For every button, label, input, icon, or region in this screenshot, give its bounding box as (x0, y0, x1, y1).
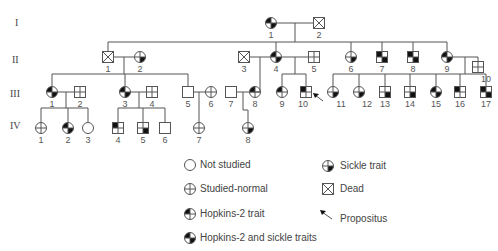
legend-label-hopkins2-trait: Hopkins-2 trait (200, 208, 264, 219)
label-IV-2: 2 (60, 135, 76, 145)
label-IV-1: 1 (33, 135, 49, 145)
label-II-6: 6 (343, 64, 359, 74)
label-III-1: 1 (44, 99, 60, 109)
label-IV-7: 7 (191, 135, 207, 145)
label-II-10: 10 (478, 74, 494, 84)
individual-IV-6 (160, 123, 171, 134)
label-III-17: 17 (478, 99, 494, 109)
label-III-4: 4 (144, 99, 160, 109)
label-II-7: 7 (374, 64, 390, 74)
legend-label-sickle-trait: Sickle trait (340, 160, 386, 171)
label-III-16: 16 (452, 99, 468, 109)
label-III-9: 9 (274, 99, 290, 109)
label-I-1: 1 (263, 30, 279, 40)
label-III-8: 8 (247, 99, 263, 109)
label-IV-4: 4 (110, 135, 126, 145)
individual-III-7 (226, 87, 237, 98)
label-II-9: 9 (439, 64, 455, 74)
label-IV-6: 6 (157, 135, 173, 145)
label-I-2: 2 (311, 30, 327, 40)
legend-label-propositus: Propositus (340, 213, 387, 224)
legend-label-not-studied: Not studied (200, 159, 251, 170)
label-III-10: 10 (295, 99, 311, 109)
label-IV-5: 5 (135, 135, 151, 145)
individual-III-5 (183, 87, 194, 98)
label-III-13: 13 (377, 99, 393, 109)
label-II-4: 4 (268, 64, 284, 74)
label-III-11: 11 (333, 99, 349, 109)
label-IV-8: 8 (240, 135, 256, 145)
label-IV-3: 3 (80, 135, 96, 145)
label-III-15: 15 (428, 99, 444, 109)
legend-label-dead: Dead (340, 183, 364, 194)
label-III-14: 14 (402, 99, 418, 109)
label-II-1: 1 (100, 64, 116, 74)
label-II-5: 5 (306, 64, 322, 74)
label-III-7: 7 (223, 99, 239, 109)
label-III-12: 12 (359, 99, 375, 109)
individual-IV-3 (83, 123, 94, 134)
label-III-6: 6 (203, 99, 219, 109)
legend-label-studied-normal: Studied-normal (200, 183, 268, 194)
label-III-5: 5 (180, 99, 196, 109)
legend-label-hopkins2-and-sickle: Hopkins-2 and sickle traits (200, 232, 317, 243)
label-III-2: 2 (72, 99, 88, 109)
label-III-3: 3 (117, 99, 133, 109)
label-II-8: 8 (405, 64, 421, 74)
label-II-3: 3 (236, 64, 252, 74)
label-II-2: 2 (132, 64, 148, 74)
legend-not-studied-icon (185, 160, 196, 171)
